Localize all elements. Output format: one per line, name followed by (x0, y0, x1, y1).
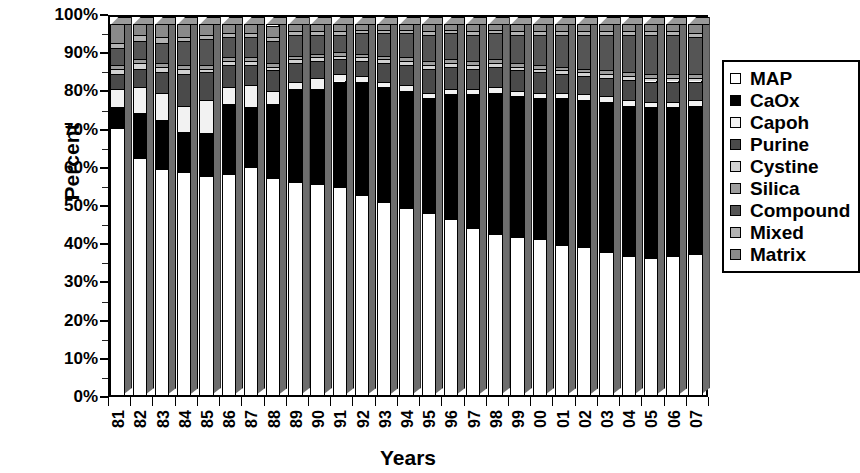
bar-98[interactable] (488, 17, 509, 395)
bar-segment-mixed (334, 31, 346, 35)
bar-00[interactable] (533, 17, 554, 395)
bar-94[interactable] (399, 17, 420, 395)
bar-segment-cystine (334, 56, 346, 60)
bar-96[interactable] (444, 17, 465, 395)
bar-top-face (177, 17, 198, 25)
bar-93[interactable] (377, 17, 398, 395)
legend-item-compound[interactable]: Compound (730, 199, 850, 221)
legend-item-matrix[interactable]: Matrix (730, 243, 850, 265)
bar-front-face (310, 24, 324, 395)
x-axis-label-96: 96 (444, 402, 460, 436)
legend-item-purine[interactable]: Purine (730, 133, 850, 155)
bar-83[interactable] (155, 17, 176, 395)
bar-segment-silica (445, 59, 457, 63)
bar-segment-map (423, 213, 435, 395)
bar-97[interactable] (466, 17, 487, 395)
bar-segment-capoh (489, 87, 501, 93)
y-axis-label-0: 0% (20, 388, 98, 405)
bar-90[interactable] (310, 17, 331, 395)
bar-95[interactable] (422, 17, 443, 395)
y-axis-label-100: 100% (20, 6, 98, 23)
bar-segment-silica (578, 69, 590, 73)
bar-segment-matrix (645, 24, 657, 31)
bar-06[interactable] (666, 17, 687, 395)
x-axis-label-81: 81 (111, 402, 127, 436)
bar-segment-caox (289, 89, 301, 182)
bar-segment-purine (667, 82, 679, 102)
legend-item-cystine[interactable]: Cystine (730, 155, 850, 177)
legend-item-map[interactable]: MAP (730, 67, 850, 89)
bar-segment-purine (600, 78, 612, 97)
x-axis-label-88: 88 (267, 402, 283, 436)
bar-front-face (377, 24, 391, 395)
bar-82[interactable] (133, 17, 154, 395)
bar-segment-mixed (245, 33, 257, 37)
bar-86[interactable] (222, 17, 243, 395)
plot-area (108, 15, 708, 397)
bar-segment-matrix (134, 24, 146, 35)
bar-top-face (666, 17, 687, 25)
bar-segment-capoh (200, 100, 212, 133)
bar-top-face (222, 17, 243, 25)
x-axis-label-89: 89 (289, 402, 305, 436)
x-axis-label-01: 01 (556, 402, 572, 436)
bar-91[interactable] (333, 17, 354, 395)
bar-segment-mixed (423, 31, 435, 35)
bar-segment-caox (423, 98, 435, 213)
legend-item-caox[interactable]: CaOx (730, 89, 850, 111)
bar-segment-cystine (267, 67, 279, 71)
bar-segment-compound (489, 33, 501, 59)
bar-segment-purine (245, 65, 257, 85)
bar-segment-compound (400, 33, 412, 57)
bar-segment-caox (267, 104, 279, 178)
legend-item-capoh[interactable]: Capoh (730, 111, 850, 133)
bar-segment-cystine (400, 61, 412, 65)
bar-front-face (199, 24, 213, 395)
bar-segment-caox (600, 102, 612, 252)
legend-item-mixed[interactable]: Mixed (730, 221, 850, 243)
legend-item-silica[interactable]: Silica (730, 177, 850, 199)
bar-segment-map (223, 174, 235, 395)
bar-segment-mixed (511, 31, 523, 35)
bar-85[interactable] (199, 17, 220, 395)
bar-92[interactable] (355, 17, 376, 395)
x-axis-label-98: 98 (489, 402, 505, 436)
bar-top-face (622, 17, 643, 25)
bar-03[interactable] (599, 17, 620, 395)
bar-segment-mixed (356, 30, 368, 34)
bar-02[interactable] (577, 17, 598, 395)
bar-segment-mixed (400, 30, 412, 34)
bar-87[interactable] (244, 17, 265, 395)
bar-99[interactable] (510, 17, 531, 395)
bar-segment-purine (445, 67, 457, 89)
bar-top-face (555, 17, 576, 25)
bar-segment-capoh (578, 94, 590, 100)
bar-segment-mixed (534, 31, 546, 35)
bar-segment-silica (134, 59, 146, 63)
bar-segment-caox (645, 107, 657, 257)
bar-segment-compound (689, 37, 701, 74)
bar-segment-mixed (556, 31, 568, 35)
y-axis-label-40: 40% (20, 235, 98, 252)
bar-07[interactable] (688, 17, 709, 395)
bar-segment-mixed (467, 31, 479, 35)
bar-01[interactable] (555, 17, 576, 395)
bar-segment-capoh (511, 91, 523, 97)
bar-front-face (222, 24, 236, 395)
bar-81[interactable] (110, 17, 131, 395)
bar-segment-silica (489, 59, 501, 63)
bar-89[interactable] (288, 17, 309, 395)
bar-segment-purine (467, 69, 479, 89)
bar-front-face (177, 24, 191, 395)
bar-88[interactable] (266, 17, 287, 395)
bar-04[interactable] (622, 17, 643, 395)
bar-segment-capoh (267, 91, 279, 104)
bar-05[interactable] (644, 17, 665, 395)
bar-front-face (488, 24, 502, 395)
bar-84[interactable] (177, 17, 198, 395)
bar-front-face (399, 24, 413, 395)
bar-segment-compound (111, 48, 123, 65)
y-axis-tick (100, 129, 108, 131)
bar-segment-silica (156, 63, 168, 67)
